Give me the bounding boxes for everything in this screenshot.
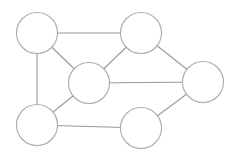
node-D (17, 105, 58, 146)
graph-diagram (0, 0, 240, 162)
node-E (183, 62, 224, 103)
node-F (121, 108, 162, 149)
node-A (17, 13, 58, 54)
nodes-group (17, 13, 224, 149)
node-B (121, 13, 162, 54)
edges-group (37, 33, 203, 128)
node-C (69, 63, 110, 104)
